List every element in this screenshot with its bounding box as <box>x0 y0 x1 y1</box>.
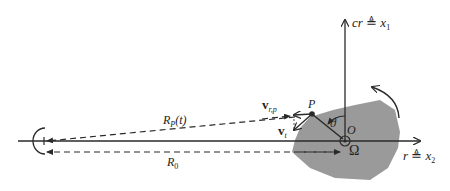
velocity-tangential-sub: t <box>285 131 287 140</box>
horizontal-axis-sub: 2 <box>431 156 435 165</box>
range-0-label: R0 <box>167 156 178 168</box>
vertical-axis-sub: 1 <box>386 23 390 32</box>
range-p-arg: (t) <box>175 113 186 127</box>
horizontal-axis-main: r <box>403 148 408 163</box>
range-p-label: RP(t) <box>163 114 187 126</box>
velocity-radial-vector <box>294 114 312 115</box>
origin-dot <box>343 139 346 142</box>
horizontal-axis-label: r ≜ x2 <box>403 149 435 162</box>
defined-as-symbol: ≜ <box>411 148 422 163</box>
velocity-radial-label: vr,p <box>262 98 277 111</box>
origin-label: O <box>347 124 356 136</box>
point-p-label: P <box>308 98 315 110</box>
defined-as-symbol: ≜ <box>366 15 377 30</box>
velocity-radial-main: v <box>262 97 269 112</box>
angle-label: ϑ <box>330 117 336 129</box>
vertical-axis-main: cr <box>352 15 363 30</box>
range-0-sub: 0 <box>174 162 178 171</box>
velocity-tangential-label: vt <box>278 124 287 137</box>
velocity-tangential-main: v <box>278 123 285 138</box>
rotation-rate-label: Ω <box>349 144 359 158</box>
range-p-arrow-end <box>262 116 290 119</box>
vertical-axis-label: cr ≜ x1 <box>352 16 390 29</box>
velocity-radial-sub: r,p <box>269 105 277 114</box>
range-p-sub: P <box>170 120 175 129</box>
